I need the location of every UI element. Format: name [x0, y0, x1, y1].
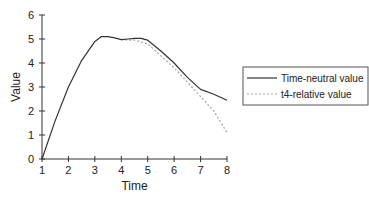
- axes: 123456780123456TimeValue: [9, 9, 230, 193]
- plot-lines: [42, 37, 227, 159]
- legend: Time-neutral valuet4-relative value: [243, 67, 368, 105]
- x-tick-label: 2: [65, 164, 71, 176]
- x-axis-title: Time: [121, 179, 148, 193]
- y-axis-title: Value: [9, 72, 23, 102]
- x-tick-label: 5: [145, 164, 151, 176]
- x-tick-label: 1: [39, 164, 45, 176]
- legend-label: t4-relative value: [281, 89, 352, 100]
- legend-label: Time-neutral value: [281, 73, 364, 84]
- y-tick-label: 2: [28, 105, 34, 117]
- x-tick-label: 3: [92, 164, 98, 176]
- x-tick-label: 7: [198, 164, 204, 176]
- y-tick-label: 3: [28, 81, 34, 93]
- y-tick-label: 1: [28, 129, 34, 141]
- x-tick-label: 4: [118, 164, 124, 176]
- y-tick-label: 0: [28, 153, 34, 165]
- y-tick-label: 5: [28, 33, 34, 45]
- x-tick-label: 6: [171, 164, 177, 176]
- line-chart: 123456780123456TimeValue Time-neutral va…: [0, 0, 369, 199]
- y-tick-label: 6: [28, 9, 34, 21]
- t4-relative-line: [121, 40, 227, 133]
- time-neutral-line: [42, 37, 227, 159]
- x-tick-label: 8: [224, 164, 230, 176]
- y-tick-label: 4: [28, 57, 34, 69]
